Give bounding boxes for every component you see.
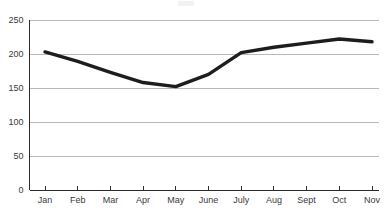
x-axis-tick-label: Mar (103, 195, 119, 205)
y-axis-tick-label: 250 (8, 15, 23, 25)
line-chart-figure: 050100150200250 JanFebMarAprMayJuneJulyA… (0, 0, 389, 215)
x-axis-tick-label: July (233, 195, 250, 205)
x-axis-tick-label: June (199, 195, 219, 205)
x-axis-tick-label: May (167, 195, 185, 205)
x-axis-tick-label: Jan (38, 195, 53, 205)
data-series-line (45, 39, 372, 87)
x-axis-tick-label: Feb (70, 195, 86, 205)
chart-canvas: 050100150200250 JanFebMarAprMayJuneJulyA… (0, 0, 389, 215)
y-axis-tick-label: 200 (8, 49, 23, 59)
y-axis-tick-label: 50 (13, 151, 23, 161)
x-axis-tick-label: Sept (297, 195, 316, 205)
x-axis-tick-label: Oct (332, 195, 347, 205)
x-axis-tick-label: Aug (266, 195, 282, 205)
x-axis-tick-label: Apr (136, 195, 150, 205)
y-axis-tick-label: 0 (18, 185, 23, 195)
y-axis-tick-label: 100 (8, 117, 23, 127)
x-axis-tick-label: Nov (364, 195, 381, 205)
x-axis-tick-labels: JanFebMarAprMayJuneJulyAugSeptOctNov (38, 195, 381, 205)
y-axis-tick-labels: 050100150200250 (8, 15, 23, 195)
y-axis-tick-label: 150 (8, 83, 23, 93)
x-axis-tick-marks (45, 186, 372, 190)
